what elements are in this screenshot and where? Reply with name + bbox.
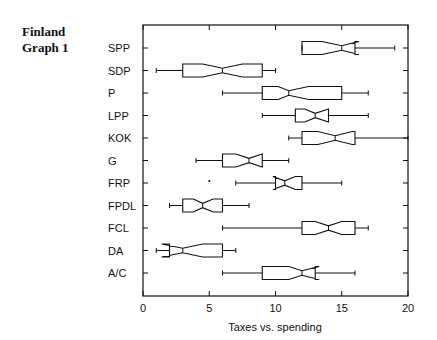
notched-box	[262, 267, 319, 280]
category-label: SPP	[108, 42, 130, 54]
box-row-lpp: LPP	[108, 109, 408, 122]
category-label: SDP	[108, 65, 131, 77]
notched-box	[262, 87, 342, 100]
category-label: A/C	[108, 267, 126, 279]
outlier-point	[208, 180, 210, 182]
x-axis-title: Taxes vs. spending	[228, 321, 322, 333]
x-tick-label: 10	[269, 302, 281, 314]
category-label: DA	[108, 245, 124, 257]
category-label: P	[108, 87, 115, 99]
box-row-sdp: SDP	[108, 64, 408, 77]
category-label: FPDL	[108, 200, 136, 212]
box-row-frp: FRP	[108, 177, 408, 190]
notched-box	[295, 109, 328, 122]
box-row-p: P	[108, 87, 408, 100]
category-label: FCL	[108, 222, 129, 234]
x-axis: 05101520	[140, 25, 414, 314]
x-tick-label: 0	[140, 302, 146, 314]
notched-boxplot-chart: 05101520 SPPSDPPLPPKOKGFRPFPDLFCLDAA/C T…	[0, 0, 437, 340]
box-row-a-c: A/C	[108, 267, 408, 280]
notched-box	[273, 177, 302, 190]
category-label: KOK	[108, 132, 132, 144]
box-row-kok: KOK	[108, 132, 408, 145]
category-label: LPP	[108, 110, 129, 122]
box-row-fcl: FCL	[108, 222, 408, 235]
category-label: FRP	[108, 177, 130, 189]
box-rows: SPPSDPPLPPKOKGFRPFPDLFCLDAA/C	[108, 42, 408, 280]
notched-box	[302, 132, 355, 145]
box-row-g: G	[108, 154, 408, 167]
category-label: G	[108, 155, 117, 167]
x-tick-label: 20	[402, 302, 414, 314]
notched-box	[223, 154, 263, 167]
notched-box	[302, 42, 359, 55]
box-row-fpdl: FPDL	[108, 199, 408, 212]
box-row-da: DA	[108, 244, 408, 257]
notched-box	[162, 244, 223, 257]
x-tick-label: 15	[336, 302, 348, 314]
box-row-spp: SPP	[108, 42, 408, 55]
x-tick-label: 5	[206, 302, 212, 314]
